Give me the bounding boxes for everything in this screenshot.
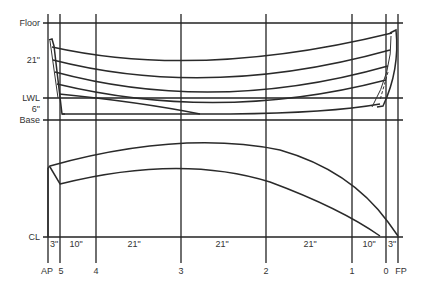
spacing-4-3: 21" bbox=[127, 239, 140, 249]
station-3-label: 3 bbox=[178, 266, 183, 276]
station-ap-label: AP bbox=[41, 266, 53, 276]
spacing-0-fp: 3" bbox=[388, 239, 396, 249]
station-fp-label: FP bbox=[395, 266, 407, 276]
floor-label: Floor bbox=[19, 18, 40, 28]
spacing-2-1: 21" bbox=[303, 239, 316, 249]
cl-label: CL bbox=[28, 232, 40, 242]
spacing-5-4: 10" bbox=[69, 239, 82, 249]
spacing-3-2: 21" bbox=[215, 239, 228, 249]
spacing-21-label: 21" bbox=[27, 55, 40, 65]
spacing-ap-5: 3" bbox=[50, 239, 58, 249]
spacing-6-label: 6" bbox=[32, 104, 40, 114]
keel-bottom-line bbox=[62, 104, 380, 114]
profile-line-2 bbox=[53, 50, 390, 78]
half-breadth-sheer bbox=[48, 143, 398, 236]
lwl-label: LWL bbox=[22, 93, 40, 103]
base-label: Base bbox=[19, 115, 40, 125]
station-4-label: 4 bbox=[93, 266, 98, 276]
lines-plan-diagram: Floor 21" LWL 6" Base CL 3" 10" 21" 21" … bbox=[0, 0, 424, 295]
station-1-label: 1 bbox=[349, 266, 354, 276]
half-breadth-inner bbox=[50, 167, 380, 236]
station-0-label: 0 bbox=[383, 266, 388, 276]
spacing-1-0: 10" bbox=[362, 239, 375, 249]
station-5-label: 5 bbox=[58, 266, 63, 276]
sheer-line bbox=[52, 33, 392, 61]
station-2-label: 2 bbox=[263, 266, 268, 276]
